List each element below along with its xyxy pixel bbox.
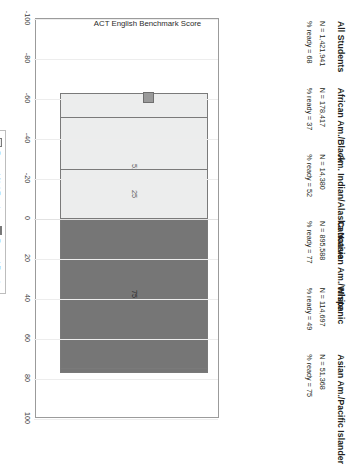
legend-item[interactable]: Percent Ready <box>0 226 2 287</box>
axis-tick-label: -100 <box>23 11 32 25</box>
legend-item[interactable]: Percent Not Ready <box>0 138 2 212</box>
bar-group: 326863374852237751492575 <box>36 19 218 417</box>
gridline <box>34 419 218 420</box>
axis-tick-label: -60 <box>23 93 32 103</box>
gridline <box>34 59 218 60</box>
bar-column: 2575 <box>36 352 218 419</box>
chart-legend: Percent Not ReadyPercent Ready <box>0 130 6 294</box>
axis-title-marker-icon <box>143 92 154 103</box>
plot-area: 326863374852237751492575 <box>35 18 219 418</box>
category-n-label: N = 51,368 <box>317 354 327 438</box>
gridline <box>34 139 218 140</box>
gridline <box>34 379 218 380</box>
axis-tick-label: 20 <box>23 254 32 262</box>
gridline <box>34 299 218 300</box>
bar-segment-not-ready[interactable]: 25 <box>60 169 208 219</box>
value-axis-ticks: -100-80-60-40-20020406080100 <box>18 18 34 418</box>
axis-tick-label: -40 <box>23 133 32 143</box>
axis-tick-label: -80 <box>23 53 32 63</box>
legend-swatch-icon <box>0 226 2 235</box>
axis-tick-label: -20 <box>23 173 32 183</box>
bar-value-label: 75 <box>130 290 137 298</box>
gridline <box>34 99 218 100</box>
gridline <box>34 259 218 260</box>
zero-line <box>34 219 218 220</box>
bar-value-label: 25 <box>130 190 137 198</box>
axis-tick-label: 100 <box>23 412 32 424</box>
axis-tick-label: 60 <box>23 334 32 342</box>
gridline <box>34 179 218 180</box>
bar-segment-ready[interactable]: 75 <box>60 219 208 369</box>
axis-tick-label: 80 <box>23 374 32 382</box>
category-ready-label: % ready = 75 <box>304 354 314 438</box>
axis-tick-label: 40 <box>23 294 32 302</box>
category-header: Asian Am./Pacific IslanderN = 51,368% re… <box>304 354 346 438</box>
category-header-group: All StudentsN = 1,421,941% ready = 68Afr… <box>232 0 350 437</box>
legend-label: Percent Ready <box>0 239 2 287</box>
legend-swatch-icon <box>0 138 2 147</box>
axis-title: ACT English Benchmark Score <box>73 19 223 28</box>
axis-tick-label: 0 <box>23 216 32 220</box>
gridline <box>34 339 218 340</box>
category-name: Asian Am./Pacific Islander <box>334 354 346 438</box>
bar-column: 3268 <box>36 19 218 86</box>
legend-label: Percent Not Ready <box>0 151 2 212</box>
